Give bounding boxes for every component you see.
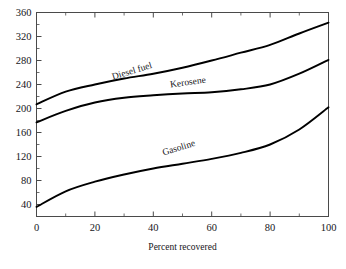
x-axis-title: Percent recovered	[148, 242, 217, 252]
y-tick-label: 120	[16, 151, 32, 162]
y-tick-label: 80	[21, 175, 32, 186]
x-tick-label: 0	[34, 222, 39, 233]
chart-plot-svg: 4080120160200240280320360 020406080100 D…	[0, 0, 346, 269]
y-tick-label: 200	[16, 103, 32, 114]
y-tick-label: 360	[16, 7, 32, 18]
x-tick-label: 80	[265, 222, 276, 233]
x-tick-label: 40	[148, 222, 159, 233]
y-tick-label: 280	[16, 55, 32, 66]
x-tick-label: 60	[206, 222, 217, 233]
y-tick-label: 320	[16, 31, 32, 42]
x-tick-label: 20	[90, 222, 101, 233]
y-tick-label: 160	[16, 127, 32, 138]
y-tick-label: 40	[21, 199, 32, 210]
distillation-curve-chart: 4080120160200240280320360 020406080100 D…	[0, 0, 346, 269]
x-tick-label: 100	[321, 222, 337, 233]
y-tick-label: 240	[16, 79, 32, 90]
chart-background	[0, 0, 346, 269]
